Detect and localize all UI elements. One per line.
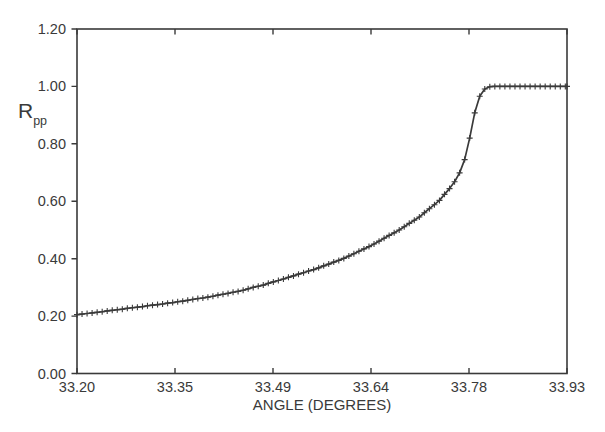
rpp-vs-angle-chart: 33.2033.3533.4933.6433.7833.93 0.000.200… bbox=[0, 0, 605, 432]
y-axis-label-subscript: pp bbox=[33, 114, 47, 128]
y-tick-label: 1.20 bbox=[38, 21, 66, 37]
y-axis-label: Rpp bbox=[18, 99, 47, 128]
plot-box bbox=[77, 29, 567, 374]
y-tick-label: 0.40 bbox=[38, 251, 66, 267]
reflectance-figure: 33.2033.3533.4933.6433.7833.93 0.000.200… bbox=[0, 0, 605, 432]
y-axis-label-base: R bbox=[18, 99, 33, 122]
x-tick-label: 33.49 bbox=[255, 379, 291, 395]
y-tick-label: 0.60 bbox=[38, 193, 66, 209]
x-axis-tick-labels: 33.2033.3533.4933.6433.7833.93 bbox=[59, 379, 585, 395]
y-tick-label: 0.00 bbox=[38, 366, 66, 382]
y-tick-label: 1.00 bbox=[38, 78, 66, 94]
x-tick-label: 33.64 bbox=[353, 379, 389, 395]
x-tick-label: 33.35 bbox=[157, 379, 193, 395]
y-tick-label: 0.20 bbox=[38, 308, 66, 324]
x-tick-label: 33.78 bbox=[451, 379, 487, 395]
rpp-curve-line bbox=[77, 86, 567, 314]
y-tick-label: 0.80 bbox=[38, 136, 66, 152]
x-axis-label: ANGLE (DEGREES) bbox=[253, 396, 391, 413]
y-axis-tick-labels: 0.000.200.400.600.801.001.20 bbox=[38, 21, 66, 382]
axis-tick-marks bbox=[72, 29, 568, 374]
plot-frame bbox=[72, 29, 568, 374]
series-rpp bbox=[74, 83, 570, 317]
x-tick-label: 33.93 bbox=[549, 379, 585, 395]
rpp-plus-markers bbox=[74, 83, 570, 317]
